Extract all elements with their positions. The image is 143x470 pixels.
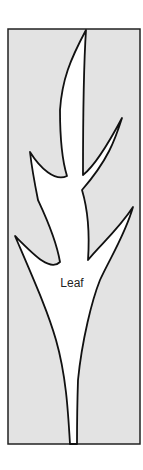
leaf-diagram: Leaf — [0, 0, 143, 470]
leaf-illustration — [0, 0, 143, 470]
leaf-label: Leaf — [52, 276, 92, 290]
